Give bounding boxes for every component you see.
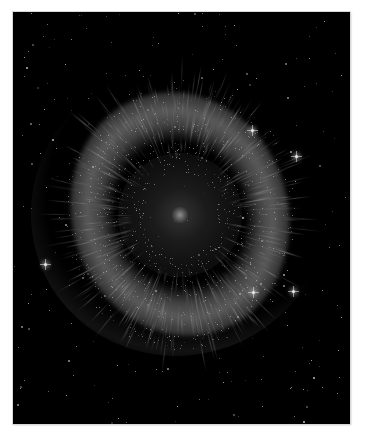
bright-star xyxy=(44,263,47,266)
bright-stars xyxy=(13,12,350,424)
bright-star xyxy=(252,291,255,294)
bright-star xyxy=(295,155,298,158)
bright-star xyxy=(292,290,295,293)
bright-star xyxy=(251,129,254,132)
nebula-photo xyxy=(13,12,350,424)
